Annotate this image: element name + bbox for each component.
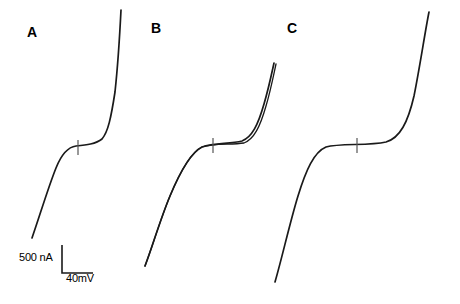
- scale-bar: [62, 245, 93, 273]
- panel-c-group: [275, 12, 429, 282]
- figure-canvas: A B C 500 nA 40mV: [0, 0, 460, 304]
- scale-bar-path: [62, 245, 93, 273]
- trace-b-curve-2: [145, 64, 276, 266]
- trace-b-curve-1: [145, 63, 274, 266]
- trace-a-curve: [32, 10, 121, 238]
- scale-bar-voltage-label: 40mV: [66, 273, 94, 284]
- panel-label-a: A: [27, 25, 37, 39]
- panel-a-group: [32, 10, 121, 238]
- panel-label-b: B: [151, 21, 161, 35]
- panel-label-c: C: [287, 21, 297, 35]
- traces-svg: [0, 0, 460, 304]
- trace-c-curve: [275, 12, 429, 282]
- panel-b-group: [145, 63, 276, 266]
- scale-bar-current-label: 500 nA: [19, 252, 53, 263]
